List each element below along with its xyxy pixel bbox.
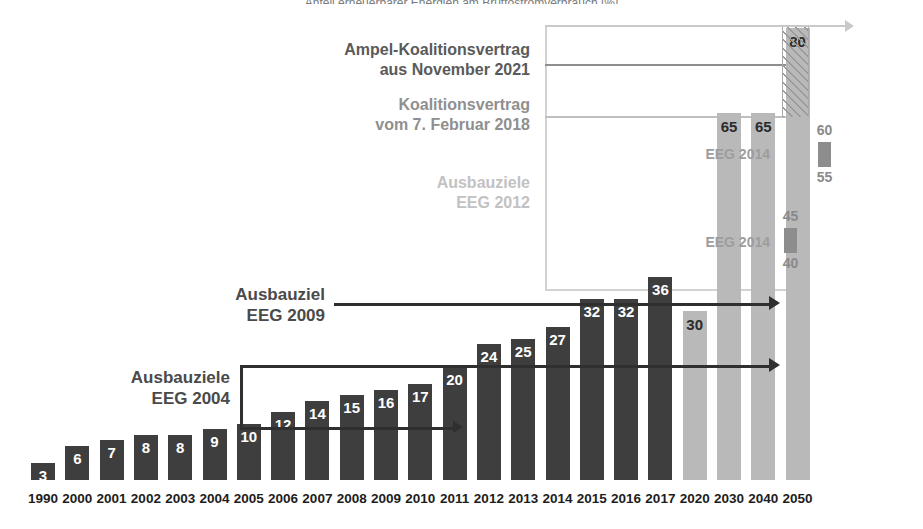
annotation-eeg2012: Ausbauziele EEG 2012 [255, 173, 530, 212]
x-tick-2005: 2005 [230, 492, 268, 506]
x-tick-2017: 2017 [641, 492, 679, 506]
bar-value-2040: 65 [747, 119, 779, 134]
eeg2004-inner-arrow-line [240, 427, 455, 430]
ampel-arrow-line [545, 64, 789, 66]
range-marker-2030-high: 45 [775, 209, 806, 223]
ampel-top-arrowhead [845, 20, 854, 32]
bar-2020 [683, 311, 707, 481]
x-tick-2004: 2004 [196, 492, 234, 506]
bar-value-2003: 8 [164, 440, 196, 455]
bar-value-2009: 16 [370, 395, 402, 410]
bar-value-2016: 32 [610, 304, 642, 319]
x-tick-2011: 2011 [436, 492, 474, 506]
x-tick-2000: 2000 [58, 492, 96, 506]
bar-value-2006: 12 [267, 417, 299, 432]
bar-2015 [580, 299, 604, 480]
x-tick-2003: 2003 [161, 492, 199, 506]
eeg-2014-lower-tag: EEG 2014 [655, 235, 770, 249]
bar-value-2005: 10 [233, 429, 265, 444]
annotation-eeg2009-line1: Ausbauziel [185, 285, 325, 306]
annotation-eeg2004-line1: Ausbauziele [85, 368, 230, 389]
range-marker-2040 [818, 142, 831, 167]
x-tick-2010: 2010 [401, 492, 439, 506]
hatched-range-2030 [782, 27, 809, 117]
bar-2017 [648, 277, 672, 480]
bar-value-2011: 20 [439, 372, 471, 387]
chart-title: Anteil erneuerbarer Energien am Bruttost… [0, 0, 923, 4]
eeg-2014-upper-tag: EEG 2014 [655, 147, 770, 161]
x-tick-2040: 2040 [744, 492, 782, 506]
bar-value-2030: 65 [713, 119, 745, 134]
bar-value-2004: 9 [199, 434, 231, 449]
x-tick-2002: 2002 [127, 492, 165, 506]
x-tick-2050: 2050 [779, 492, 817, 506]
range-marker-2030 [784, 228, 797, 253]
x-tick-2013: 2013 [504, 492, 542, 506]
annotation-eeg2009-line2: EEG 2009 [185, 306, 325, 327]
x-tick-2012: 2012 [470, 492, 508, 506]
bar-value-2000: 6 [61, 451, 93, 466]
bar-value-2017: 36 [644, 282, 676, 297]
bar-value-2013: 25 [507, 344, 539, 359]
eeg2004-inner-arrowhead [453, 421, 463, 433]
x-tick-2030: 2030 [710, 492, 748, 506]
bar-2013 [511, 339, 535, 480]
eeg2004-frame-vline [240, 365, 243, 429]
annotation-kv2018-line2: vom 7. Februar 2018 [255, 115, 530, 135]
annotation-ampel-line2: aus November 2021 [255, 60, 530, 80]
bar-value-2015: 32 [576, 304, 608, 319]
annotation-kv2018-line1: Koalitionsvertrag [255, 95, 530, 115]
bar-value-2012: 24 [473, 349, 505, 364]
annotation-kv2018: Koalitionsvertrag vom 7. Februar 2018 [255, 95, 530, 134]
annotation-eeg2004: Ausbauziele EEG 2004 [85, 368, 230, 409]
bar-2014 [546, 327, 570, 480]
bar-value-1990: 3 [27, 468, 59, 483]
range-marker-2030-low: 40 [775, 256, 806, 270]
eeg2004-frame-top [240, 365, 771, 368]
x-tick-2014: 2014 [539, 492, 577, 506]
bar-value-2001: 7 [96, 445, 128, 460]
x-tick-2001: 2001 [93, 492, 131, 506]
annotation-eeg2009: Ausbauziel EEG 2009 [185, 285, 325, 326]
annotation-ampel-line1: Ampel-Koalitionsvertrag [255, 40, 530, 60]
range-marker-2040-high: 60 [809, 123, 840, 137]
bar-value-2008: 15 [336, 400, 368, 415]
annotation-eeg2012-line1: Ausbauziele [255, 173, 530, 193]
x-tick-1990: 1990 [24, 492, 62, 506]
annotation-eeg2004-line2: EEG 2004 [85, 389, 230, 410]
eeg2009-arrow-line [334, 303, 771, 306]
annotation-eeg2012-line2: EEG 2012 [255, 193, 530, 213]
x-tick-2020: 2020 [676, 492, 714, 506]
x-tick-2008: 2008 [333, 492, 371, 506]
x-tick-2015: 2015 [573, 492, 611, 506]
x-tick-2009: 2009 [367, 492, 405, 506]
x-tick-2007: 2007 [298, 492, 336, 506]
bar-2016 [614, 299, 638, 480]
bar-value-2020: 30 [679, 317, 711, 332]
chart-canvas: Anteil erneuerbarer Energien am Bruttost… [0, 0, 923, 529]
x-tick-2006: 2006 [264, 492, 302, 506]
annotation-ampel: Ampel-Koalitionsvertrag aus November 202… [255, 40, 530, 79]
x-tick-2016: 2016 [607, 492, 645, 506]
eeg2009-arrowhead [769, 296, 780, 310]
bar-2030 [717, 113, 741, 480]
eeg2004-frame-arrowhead [769, 358, 780, 372]
bar-value-2014: 27 [542, 332, 574, 347]
range-marker-2040-low: 55 [809, 170, 840, 184]
bar-value-2007: 14 [301, 406, 333, 421]
bar-value-2010: 17 [404, 389, 436, 404]
bar-value-2002: 8 [130, 440, 162, 455]
